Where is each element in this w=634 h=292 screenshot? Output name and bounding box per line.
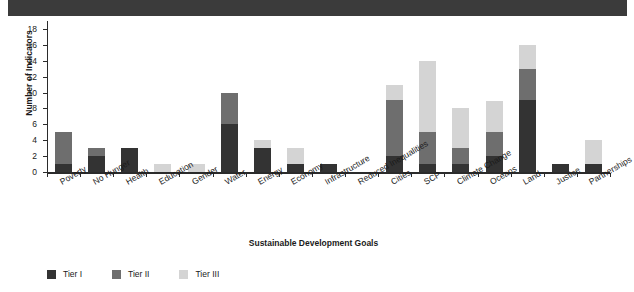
y-axis-tick-label: 10: [28, 88, 37, 98]
x-axis-tick: [444, 173, 445, 177]
y-axis-tick-label: 4: [32, 135, 37, 145]
bar-land[interactable]: [519, 45, 536, 172]
bar-segment-tier-iii: [254, 140, 271, 148]
y-axis-tick-label: 0: [32, 167, 37, 177]
bar-climate-change[interactable]: [452, 108, 469, 172]
x-axis-tick: [47, 173, 48, 177]
y-axis-tick: 16: [43, 45, 47, 46]
bar-partnerships[interactable]: [585, 140, 602, 172]
bar-segment-tier-ii: [386, 100, 403, 156]
plot-area: 024681012141618: [47, 21, 610, 173]
y-axis-tick: 6: [43, 124, 47, 125]
x-axis-tick: [544, 173, 545, 177]
y-axis-tick: 14: [43, 61, 47, 62]
y-axis-tick-label: 14: [28, 56, 37, 66]
header-bar: [8, 0, 627, 16]
bar-segment-tier-iii: [452, 108, 469, 148]
y-axis-tick: 8: [43, 108, 47, 109]
bar-segment-tier-ii: [55, 132, 72, 164]
bar-segment-tier-iii: [386, 85, 403, 101]
legend-item-tier-iii[interactable]: Tier III: [179, 269, 219, 279]
y-axis-tick: 10: [43, 93, 47, 94]
chart-figure: Number of Indicators 024681012141618 Pov…: [0, 16, 627, 292]
bar-water[interactable]: [221, 93, 238, 172]
bar-segment-tier-iii: [287, 148, 304, 164]
bar-segment-tier-i: [88, 156, 105, 172]
y-axis-tick: 18: [43, 29, 47, 30]
bar-segment-tier-iii: [585, 140, 602, 164]
bar-scp[interactable]: [419, 61, 436, 172]
bar-segment-tier-ii: [519, 69, 536, 101]
y-axis-tick: 2: [43, 156, 47, 157]
y-axis-tick-label: 12: [28, 72, 37, 82]
bar-segment-tier-iii: [419, 61, 436, 133]
bar-segment-tier-i: [254, 148, 271, 172]
bar-economy[interactable]: [287, 148, 304, 172]
bar-segment-tier-i: [221, 124, 238, 172]
bar-segment-tier-iii: [486, 101, 503, 133]
y-axis-tick-label: 18: [28, 24, 37, 34]
legend-item-tier-i[interactable]: Tier I: [47, 269, 82, 279]
y-axis-tick: 12: [43, 77, 47, 78]
bar-segment-tier-iii: [519, 45, 536, 69]
bar-poverty[interactable]: [55, 132, 72, 172]
y-axis-tick-label: 16: [28, 40, 37, 50]
bar-segment-tier-ii: [221, 93, 238, 125]
legend-swatch-icon: [112, 270, 121, 279]
bar-segment-tier-ii: [452, 148, 469, 164]
y-axis-tick: 4: [43, 140, 47, 141]
legend-item-tier-ii[interactable]: Tier II: [112, 269, 149, 279]
x-axis-title: Sustainable Development Goals: [0, 238, 627, 248]
legend-swatch-icon: [47, 270, 56, 279]
legend-label: Tier I: [63, 269, 82, 279]
chart-legend: Tier ITier IITier III: [47, 269, 219, 279]
y-axis-tick-label: 2: [32, 151, 37, 161]
y-axis-tick-label: 6: [32, 119, 37, 129]
bar-no-hunger[interactable]: [88, 148, 105, 172]
legend-label: Tier III: [195, 269, 219, 279]
y-axis-tick-label: 8: [32, 103, 37, 113]
legend-label: Tier II: [128, 269, 149, 279]
bar-segment-tier-ii: [88, 148, 105, 156]
y-axis-line: [47, 21, 48, 173]
legend-swatch-icon: [179, 270, 188, 279]
bar-energy[interactable]: [254, 140, 271, 172]
bar-segment-tier-i: [519, 100, 536, 172]
